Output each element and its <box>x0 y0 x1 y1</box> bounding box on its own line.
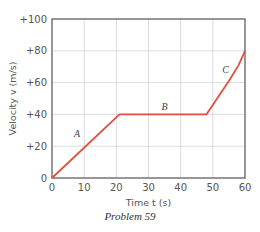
segment-label-c: C <box>222 64 229 75</box>
x-tick-label: 30 <box>142 182 155 193</box>
segment-label-a: A <box>73 128 81 139</box>
x-tick-label: 40 <box>174 182 187 193</box>
segment-label-b: B <box>162 101 168 112</box>
velocity-time-chart: 01020304050600+20+40+60+80+100Time t (s)… <box>0 0 260 210</box>
y-tick-label: +80 <box>26 45 47 56</box>
y-tick-label: +40 <box>26 109 47 120</box>
y-tick-label: +60 <box>26 77 47 88</box>
x-tick-label: 10 <box>78 182 91 193</box>
y-axis-label: Velocity v (m/s) <box>7 62 18 136</box>
x-tick-label: 60 <box>239 182 252 193</box>
x-tick-label: 50 <box>206 182 219 193</box>
x-tick-label: 0 <box>49 182 55 193</box>
x-axis-label: Time t (s) <box>125 197 171 208</box>
y-tick-label: 0 <box>41 173 47 184</box>
y-tick-label: +100 <box>20 14 47 25</box>
x-tick-label: 20 <box>110 182 123 193</box>
y-tick-label: +20 <box>26 141 47 152</box>
figure-caption: Problem 59 <box>0 210 260 222</box>
